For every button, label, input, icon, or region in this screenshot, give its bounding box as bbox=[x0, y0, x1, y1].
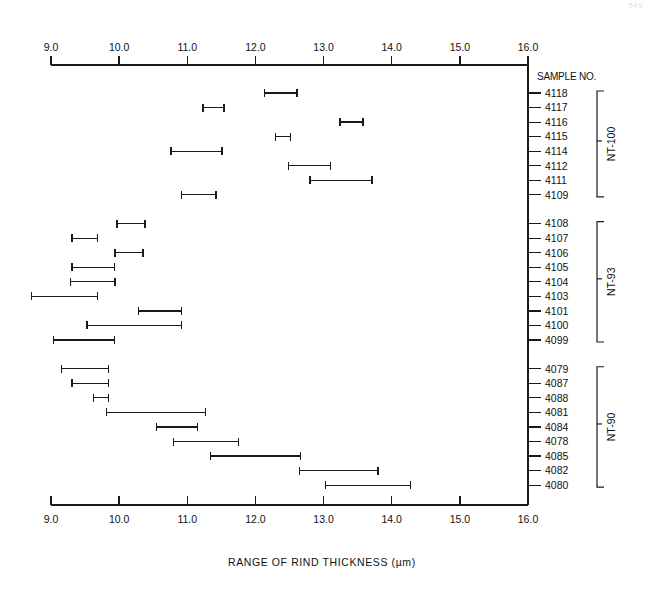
sample-label: 4104 bbox=[545, 276, 569, 288]
sample-label: 4081 bbox=[545, 406, 569, 418]
axis-tick-label: 9.0 bbox=[44, 41, 59, 53]
sample-label: 4108 bbox=[545, 217, 569, 229]
axis-tick-label: 14.0 bbox=[381, 41, 402, 53]
sample-label: 4106 bbox=[545, 247, 569, 259]
sample-label: 4112 bbox=[545, 160, 568, 172]
range-chart: 9.010.011.012.013.014.015.016.0 9.010.01… bbox=[0, 0, 651, 592]
axis-tick-label: 9.0 bbox=[44, 513, 59, 525]
group-label: NT-93 bbox=[605, 267, 617, 296]
axis-tick-label: 12.0 bbox=[245, 513, 266, 525]
top-axis: 9.010.011.012.013.014.015.016.0 bbox=[44, 41, 539, 65]
group-bracket bbox=[597, 222, 604, 342]
axis-tick-label: 10.0 bbox=[109, 41, 130, 53]
sample-label: 4116 bbox=[545, 116, 568, 128]
group-label: NT-90 bbox=[605, 412, 617, 441]
sample-label: 4082 bbox=[545, 464, 569, 476]
axis-tick-label: 16.0 bbox=[518, 41, 539, 53]
axis-tick-label: 15.0 bbox=[450, 513, 471, 525]
range-bars bbox=[31, 89, 411, 489]
x-axis-caption: RANGE OF RIND THICKNESS (µm) bbox=[228, 556, 416, 568]
sample-label: 4100 bbox=[545, 319, 569, 331]
figure-container: 549 9.010.011.012.013.014.015.016.0 9.01… bbox=[0, 0, 651, 592]
sample-label: 4099 bbox=[545, 334, 569, 346]
sample-label: 4109 bbox=[545, 189, 569, 201]
axis-tick-label: 11.0 bbox=[177, 513, 197, 525]
sample-label: 4111 bbox=[545, 174, 567, 186]
axis-tick-label: 13.0 bbox=[313, 513, 334, 525]
sample-label: 4085 bbox=[545, 450, 569, 462]
sample-label: 4078 bbox=[545, 435, 569, 447]
sample-label: 4087 bbox=[545, 377, 569, 389]
sample-label: 4105 bbox=[545, 261, 569, 273]
sample-label: 4084 bbox=[545, 421, 569, 433]
group-bracket bbox=[597, 367, 604, 487]
axis-tick-label: 11.0 bbox=[177, 41, 197, 53]
sample-label: 4107 bbox=[545, 232, 569, 244]
sample-number-column: SAMPLE NO.411841174116411541144112411141… bbox=[528, 65, 596, 505]
axis-tick-label: 14.0 bbox=[381, 513, 402, 525]
sample-label: 4115 bbox=[545, 130, 568, 142]
sample-label: 4114 bbox=[545, 145, 568, 157]
page-number: 549 bbox=[628, 1, 643, 10]
sample-label: 4103 bbox=[545, 290, 569, 302]
sample-label: 4101 bbox=[545, 305, 569, 317]
bottom-axis: 9.010.011.012.013.014.015.016.0 bbox=[44, 496, 539, 525]
axis-tick-label: 15.0 bbox=[450, 41, 471, 53]
sample-column-header: SAMPLE NO. bbox=[537, 71, 596, 82]
axis-tick-label: 12.0 bbox=[245, 41, 266, 53]
group-label: NT-100 bbox=[605, 127, 617, 162]
axis-tick-label: 10.0 bbox=[109, 513, 130, 525]
sample-label: 4080 bbox=[545, 479, 569, 491]
sample-label: 4079 bbox=[545, 363, 569, 375]
sample-label: 4118 bbox=[545, 87, 568, 99]
sample-label: 4117 bbox=[545, 101, 568, 113]
group-bracket bbox=[597, 91, 604, 197]
axis-tick-label: 13.0 bbox=[313, 41, 334, 53]
group-brackets: NT-100NT-93NT-90 bbox=[597, 91, 617, 487]
axis-tick-label: 16.0 bbox=[518, 513, 539, 525]
sample-label: 4088 bbox=[545, 392, 569, 404]
